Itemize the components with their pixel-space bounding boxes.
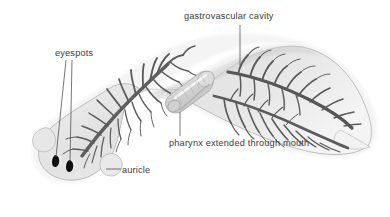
planarian-illustration: [0, 0, 390, 217]
label-eyespots: eyespots: [55, 48, 93, 59]
label-gastrovascular-cavity: gastrovascular cavity: [184, 11, 274, 22]
auricle-right: [100, 153, 122, 176]
auricle-left: [33, 128, 56, 152]
label-auricle: auricle: [122, 165, 150, 176]
planarian-anatomy-figure: gastrovascular cavity eyespots pharynx e…: [0, 0, 390, 217]
label-pharynx-extended-through-mouth: pharynx extended through mouth: [169, 138, 309, 149]
